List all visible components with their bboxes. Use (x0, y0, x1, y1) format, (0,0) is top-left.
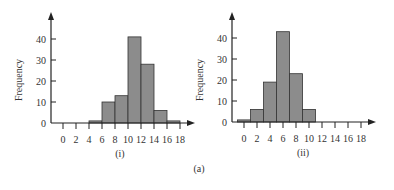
y-tick-label: 40 (36, 34, 46, 45)
histogram-bar (277, 32, 290, 122)
x-tick-label: 4 (87, 134, 92, 145)
x-tick-label: 10 (304, 133, 314, 144)
histogram-bar (102, 102, 115, 123)
figure: 010203040024681012141618Frequency(i)0102… (0, 0, 394, 190)
y-tick-label: 20 (36, 76, 46, 87)
panel-label: (i) (115, 148, 124, 160)
x-tick-label: 8 (294, 133, 299, 144)
y-tick-label: 40 (217, 33, 227, 44)
x-tick-label: 14 (149, 134, 159, 145)
x-tick-label: 12 (136, 134, 146, 145)
x-tick-label: 14 (330, 133, 340, 144)
x-tick-label: 16 (162, 134, 172, 145)
x-tick-label: 0 (61, 134, 66, 145)
figure-label: (a) (193, 163, 204, 175)
x-axis-arrow-icon (187, 120, 195, 126)
histogram-bar (128, 37, 141, 123)
y-tick-label: 0 (222, 117, 227, 128)
x-tick-label: 2 (255, 133, 260, 144)
x-tick-label: 2 (74, 134, 79, 145)
x-tick-label: 12 (317, 133, 327, 144)
x-tick-label: 0 (242, 133, 247, 144)
x-tick-label: 18 (175, 134, 185, 145)
y-tick-label: 10 (36, 97, 46, 108)
histogram-bar (251, 109, 264, 122)
y-tick-label: 30 (217, 54, 227, 65)
histogram-bar (154, 110, 167, 123)
x-tick-label: 8 (113, 134, 118, 145)
y-tick-label: 30 (36, 55, 46, 66)
x-tick-label: 10 (123, 134, 133, 145)
x-tick-label: 18 (356, 133, 366, 144)
x-tick-label: 16 (343, 133, 353, 144)
y-axis-arrow-icon (229, 12, 235, 20)
panel-label: (ii) (297, 147, 309, 159)
x-axis-arrow-icon (368, 119, 376, 125)
y-tick-label: 0 (41, 118, 46, 129)
y-tick-label: 20 (217, 75, 227, 86)
y-tick-label: 10 (217, 96, 227, 107)
y-axis-arrow-icon (48, 12, 54, 20)
y-axis-title: Frequency (194, 59, 205, 101)
histogram-bar (264, 82, 277, 122)
y-axis-title: Frequency (13, 59, 24, 101)
histogram-bar (115, 96, 128, 123)
histogram-bar (290, 74, 303, 122)
histogram-bar (303, 109, 316, 122)
x-tick-label: 4 (268, 133, 273, 144)
x-tick-label: 6 (281, 133, 286, 144)
x-tick-label: 6 (100, 134, 105, 145)
histogram-bar (141, 64, 154, 123)
